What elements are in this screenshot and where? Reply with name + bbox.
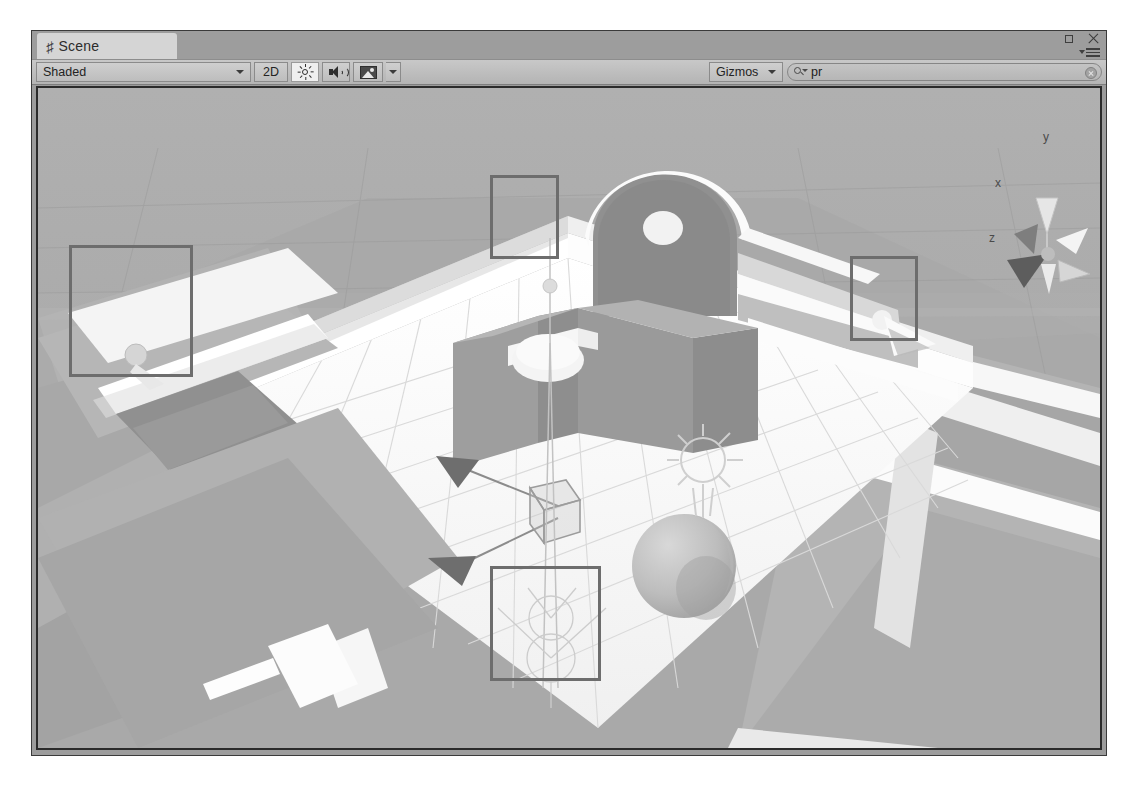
chevron-down-icon: [236, 70, 244, 74]
selection-box-bottom[interactable]: [490, 566, 601, 681]
axis-label-y: y: [1043, 130, 1049, 144]
window-tabstrip: ♯ Scene: [32, 31, 1106, 59]
toggle-2d-button[interactable]: 2D: [254, 62, 288, 82]
lighting-toggle-button[interactable]: [291, 62, 319, 82]
selection-box-left[interactable]: [69, 245, 193, 377]
shading-mode-label: Shaded: [43, 65, 86, 79]
search-value: pr: [811, 65, 822, 79]
screenshot-root: ♯ Scene Shaded: [0, 0, 1138, 790]
axis-label-x: x: [995, 176, 1001, 190]
scene-window: ♯ Scene Shaded: [31, 30, 1107, 756]
audio-toggle-button[interactable]: [322, 62, 350, 82]
maximize-icon[interactable]: [1065, 32, 1078, 45]
search-icon: [794, 67, 804, 77]
selection-box-top[interactable]: [490, 175, 559, 259]
image-icon: [360, 66, 377, 79]
effects-toggle-button[interactable]: [353, 62, 383, 82]
tab-scene-label: Scene: [59, 38, 100, 54]
selection-box-right[interactable]: [850, 256, 918, 341]
sun-icon: [298, 65, 313, 80]
window-controls: [1065, 32, 1100, 45]
speaker-icon: [328, 65, 344, 79]
gizmos-dropdown[interactable]: Gizmos: [709, 62, 783, 82]
scene-toolbar: Shaded 2D: [32, 59, 1106, 85]
tab-scene[interactable]: ♯ Scene: [37, 33, 177, 59]
toggle-2d-label: 2D: [263, 65, 279, 79]
chevron-down-icon: [389, 70, 397, 74]
hash-icon: ♯: [46, 39, 54, 54]
scene-viewport[interactable]: y x z: [36, 86, 1102, 750]
panel-options-icon[interactable]: [1083, 48, 1100, 58]
close-icon[interactable]: [1087, 32, 1100, 45]
axis-label-z: z: [989, 231, 995, 245]
effects-dropdown-button[interactable]: [386, 62, 401, 82]
clear-icon[interactable]: [1085, 67, 1097, 79]
chevron-down-icon: [768, 70, 776, 74]
search-input[interactable]: pr: [787, 63, 1102, 81]
shading-mode-dropdown[interactable]: Shaded: [36, 62, 251, 82]
gizmos-label: Gizmos: [716, 65, 758, 79]
